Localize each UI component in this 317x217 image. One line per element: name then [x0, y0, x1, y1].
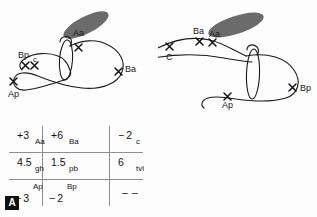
- panel-a-table: +3 Aa +6 Ba − 2 c: [9, 126, 143, 206]
- vertical-oval-loop: [58, 40, 74, 81]
- figure-root: Aa Ba Bp c Ap +3 Aa +6 Ba: [0, 0, 317, 217]
- gray-ellipse: [60, 6, 112, 44]
- label-c: C: [166, 53, 172, 62]
- label-ap: Ap: [8, 90, 19, 99]
- cell-tag: Bp: [67, 182, 77, 191]
- cell-value: 4.5: [17, 156, 32, 168]
- panel-label-a: A: [5, 196, 19, 210]
- panel-a: Aa Ba Bp c Ap +3 Aa +6 Ba: [0, 0, 158, 217]
- x-marker-ba: [115, 68, 122, 75]
- x-marker-bp: [289, 84, 296, 91]
- label-bp: Bp: [300, 84, 311, 93]
- cell-value: − 2: [49, 192, 63, 204]
- cell-tag: Ba: [69, 137, 79, 146]
- label-bp: Bp: [18, 51, 29, 60]
- panel-b: Ba Aa C Ap Bp − 3 Aa − 3 Ba: [158, 0, 317, 217]
- label-ap: Ap: [222, 101, 233, 110]
- cell-value: 6: [118, 156, 124, 168]
- x-marker-aa: [209, 39, 216, 46]
- panel-a-diagram: [0, 0, 158, 126]
- cell-value: – –: [122, 186, 139, 198]
- label-c: c: [33, 56, 37, 64]
- label-ba: Ba: [193, 27, 204, 36]
- table-row: − 3 Ap − 2 Bp – –: [9, 180, 143, 207]
- x-marker-bp: [22, 62, 29, 69]
- cell-value: − 2: [118, 129, 132, 141]
- table-cell: 6 tvl: [110, 153, 144, 180]
- table-row: 4.5 gh 1.5 pb 6 tvl: [9, 153, 143, 180]
- vertical-oval-loop: [246, 49, 261, 99]
- cell-tag: c: [136, 137, 140, 146]
- x-marker-c: [166, 43, 173, 50]
- table-cell: – –: [110, 180, 144, 207]
- x-marker-ap: [224, 93, 231, 100]
- table-cell: 1.5 pb: [43, 153, 110, 180]
- table-cell: − 2 Bp: [43, 180, 110, 207]
- table-cell: +6 Ba: [43, 126, 110, 153]
- x-marker-aa: [75, 44, 82, 51]
- label-aa: Aa: [73, 29, 84, 38]
- x-marker-ba: [196, 38, 203, 45]
- cell-tag: Ap: [33, 182, 43, 191]
- label-ba: Ba: [125, 65, 136, 74]
- panel-b-diagram: [158, 0, 317, 124]
- cell-value: +3: [17, 129, 29, 141]
- table-cell: − 2 c: [110, 126, 144, 153]
- cell-tag: pb: [69, 164, 78, 173]
- cell-tag: tvl: [136, 164, 144, 173]
- cell-value: +6: [51, 129, 63, 141]
- table-cell: 4.5 gh: [9, 153, 43, 180]
- table-cell: +3 Aa: [9, 126, 43, 153]
- table-row: +3 Aa +6 Ba − 2 c: [9, 126, 143, 153]
- right-loop: [202, 55, 298, 108]
- x-markers: [166, 38, 296, 100]
- cell-value: 1.5: [51, 156, 66, 168]
- label-aa: Aa: [209, 30, 220, 39]
